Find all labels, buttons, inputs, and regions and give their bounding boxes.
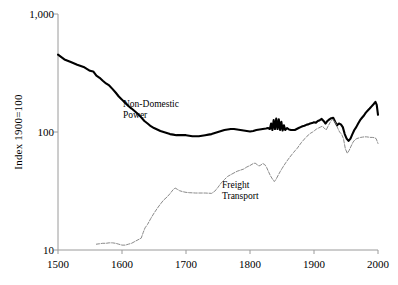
chart-container: Index 1900=100 1,000 100 10 1500 1600 17… (0, 0, 398, 285)
series-line-freight-transport (96, 119, 378, 245)
series-lines (58, 55, 378, 245)
plot-area (0, 0, 398, 285)
series-line-non-domestic-power (58, 55, 378, 141)
axis-lines (54, 14, 378, 254)
